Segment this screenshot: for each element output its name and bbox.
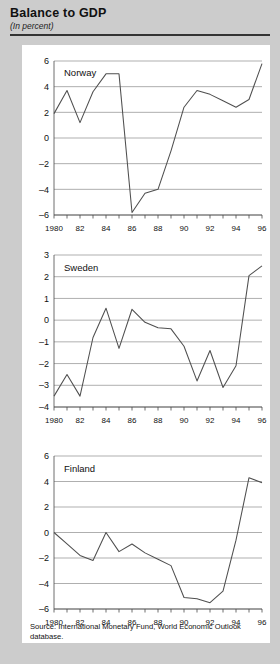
- y-axis-tick-label: –2: [39, 553, 49, 563]
- x-axis-tick-label: 88: [154, 224, 163, 233]
- x-axis-tick-label: 88: [154, 416, 163, 425]
- x-axis-tick-label: 1980: [45, 416, 63, 425]
- y-axis-tick-label: –4: [39, 579, 49, 589]
- chart-sweden-svg: 3210–1–2–3–419808284868890929496Sweden: [22, 245, 270, 440]
- y-axis-tick-label: 6: [44, 56, 49, 66]
- y-axis-tick-label: 0: [44, 315, 49, 325]
- x-axis-tick-label: 92: [206, 224, 215, 233]
- x-axis-tick-label: 82: [76, 416, 85, 425]
- y-axis-tick-label: 6: [44, 451, 49, 461]
- y-axis-tick-label: 2: [44, 108, 49, 118]
- series-line-sweden: [54, 266, 262, 396]
- chart-sweden: 3210–1–2–3–419808284868890929496Sweden: [22, 245, 270, 440]
- y-axis-tick-label: –1: [39, 337, 49, 347]
- x-axis-tick-label: 86: [128, 416, 137, 425]
- figure-page: { "header": { "title": "Balance to GDP",…: [0, 0, 280, 664]
- x-axis-tick-label: 96: [258, 416, 267, 425]
- y-axis-tick-label: –2: [39, 159, 49, 169]
- x-axis-tick-label: 94: [232, 224, 241, 233]
- y-axis-tick-label: –4: [39, 402, 49, 412]
- x-axis-tick-label: 1980: [45, 224, 63, 233]
- y-axis-tick-label: 1: [44, 294, 49, 304]
- page-title: Balance to GDP: [10, 6, 270, 20]
- series-line-finland: [54, 478, 262, 603]
- page-subtitle: (In percent): [10, 21, 270, 31]
- x-axis-tick-label: 84: [102, 224, 111, 233]
- y-axis-tick-label: 3: [44, 250, 49, 260]
- y-axis-tick-label: –4: [39, 185, 49, 195]
- y-axis-tick-label: 4: [44, 477, 49, 487]
- chart-finland: 6420–2–4–619808284868890929496Finland: [22, 440, 270, 640]
- y-axis-tick-label: –3: [39, 380, 49, 390]
- source-note: Source: International Monetary Fund, Wor…: [30, 622, 266, 641]
- figure-header: Balance to GDP (In percent): [0, 0, 280, 31]
- y-axis-tick-label: 4: [44, 82, 49, 92]
- y-axis-tick-label: –6: [39, 210, 49, 220]
- y-axis-tick-label: 2: [44, 272, 49, 282]
- y-axis-tick-label: 0: [44, 528, 49, 538]
- series-label: Finland: [64, 463, 95, 474]
- x-axis-tick-label: 86: [128, 224, 137, 233]
- y-axis-tick-label: –6: [39, 604, 49, 614]
- x-axis-tick-label: 94: [232, 416, 241, 425]
- chart-finland-svg: 6420–2–4–619808284868890929496Finland: [22, 440, 270, 640]
- x-axis-tick-label: 84: [102, 416, 111, 425]
- y-axis-tick-label: 2: [44, 502, 49, 512]
- series-label: Sweden: [64, 262, 98, 273]
- series-label: Norway: [64, 67, 96, 78]
- x-axis-tick-label: 92: [206, 416, 215, 425]
- y-axis-tick-label: –2: [39, 359, 49, 369]
- y-axis-tick-label: 0: [44, 133, 49, 143]
- x-axis-tick-label: 82: [76, 224, 85, 233]
- charts-panel: 6420–2–4–619808284868890929496Norway 321…: [22, 45, 270, 643]
- x-axis-tick-label: 96: [258, 224, 267, 233]
- title-divider: [10, 34, 270, 36]
- x-axis-tick-label: 90: [180, 224, 189, 233]
- x-axis-tick-label: 90: [180, 416, 189, 425]
- chart-norway: 6420–2–4–619808284868890929496Norway: [22, 45, 270, 245]
- chart-norway-svg: 6420–2–4–619808284868890929496Norway: [22, 45, 270, 245]
